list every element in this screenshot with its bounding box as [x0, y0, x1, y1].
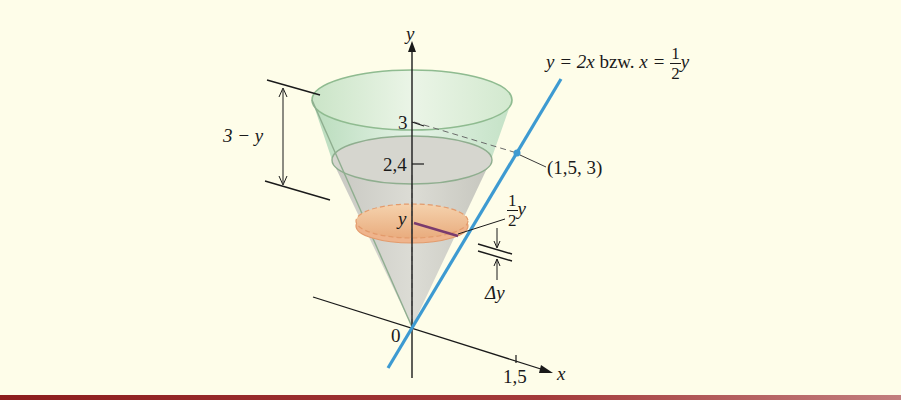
point-label: (1,5, 3): [547, 158, 602, 177]
bottom-border-band: [0, 395, 901, 400]
line-equation-label: y = 2x bzw. x = 12y: [546, 45, 689, 82]
diagram-canvas: [0, 0, 901, 400]
fraction-numerator: 1: [670, 45, 681, 64]
height-label: 3 − y: [223, 126, 263, 145]
radius-fraction-denominator: 2: [507, 211, 518, 229]
y-axis-label: y: [406, 24, 414, 43]
equation-connector: bzw.: [599, 51, 634, 72]
radius-fraction: 12: [507, 192, 518, 229]
height-top-extension: [267, 80, 320, 95]
x-axis-label: x: [557, 364, 565, 383]
x-axis-arrow-icon: [539, 365, 553, 373]
equation-rhs-var: x =: [639, 51, 665, 72]
thickness-label: Δy: [485, 283, 505, 302]
fraction-denominator: 2: [670, 64, 681, 82]
disk-center-label: y: [398, 209, 406, 228]
equation-fraction: 12: [670, 45, 681, 82]
point-1-5-3: [514, 150, 521, 157]
tick-label-1-5: 1,5: [503, 367, 527, 386]
origin-label: 0: [391, 326, 401, 345]
tick-label-3: 3: [398, 113, 408, 132]
radius-fraction-numerator: 1: [507, 192, 518, 211]
radius-label: 12y: [507, 192, 526, 229]
height-bottom-extension: [265, 181, 330, 200]
point-leader: [520, 155, 546, 167]
equation-rhs-tail: y: [681, 51, 689, 72]
x-axis: [313, 297, 544, 370]
radius-tail: y: [518, 198, 526, 219]
equation-lhs: y = 2x: [546, 51, 595, 72]
tick-label-2-4: 2,4: [383, 155, 407, 174]
cone-volume-diagram: y x 0 3 2,4 1,5 y = 2x bzw. x = 12y (1,5…: [0, 0, 901, 400]
